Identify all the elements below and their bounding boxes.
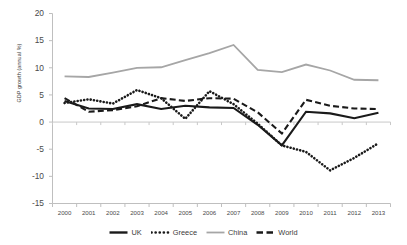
y-axis-tick-label: 15	[18, 35, 44, 45]
x-axis-tick-label: 2013	[363, 209, 393, 216]
legend-label: China	[228, 228, 247, 237]
legend-label: UK	[131, 228, 141, 237]
legend-label: World	[278, 228, 297, 237]
legend-swatch-greece-icon	[151, 228, 170, 237]
gdp-growth-line-chart: GDP growth (annual %) 20151050-5-10-15 2…	[0, 0, 407, 245]
series-line-world	[65, 98, 379, 133]
y-axis-tick-label: -10	[18, 171, 44, 181]
legend-item-china[interactable]: China	[206, 228, 247, 237]
y-axis-tick-label: 0	[18, 117, 44, 127]
y-axis-tick-label: 20	[18, 8, 44, 18]
legend-swatch-uk-icon	[109, 228, 128, 237]
legend-item-greece[interactable]: Greece	[151, 228, 197, 237]
legend-item-world[interactable]: World	[256, 228, 297, 237]
y-axis-tick-label: 5	[18, 90, 44, 100]
series-line-china	[65, 45, 379, 80]
y-axis-tick-label: 10	[18, 63, 44, 73]
legend-label: Greece	[173, 228, 197, 237]
chart-legend: UKGreeceChinaWorld	[0, 228, 407, 237]
series-line-greece	[65, 90, 379, 170]
y-axis-tick-label: -5	[18, 144, 44, 154]
legend-swatch-china-icon	[206, 228, 225, 237]
y-axis-tick-label: -15	[18, 198, 44, 208]
legend-swatch-world-icon	[256, 228, 275, 237]
legend-item-uk[interactable]: UK	[109, 228, 141, 237]
